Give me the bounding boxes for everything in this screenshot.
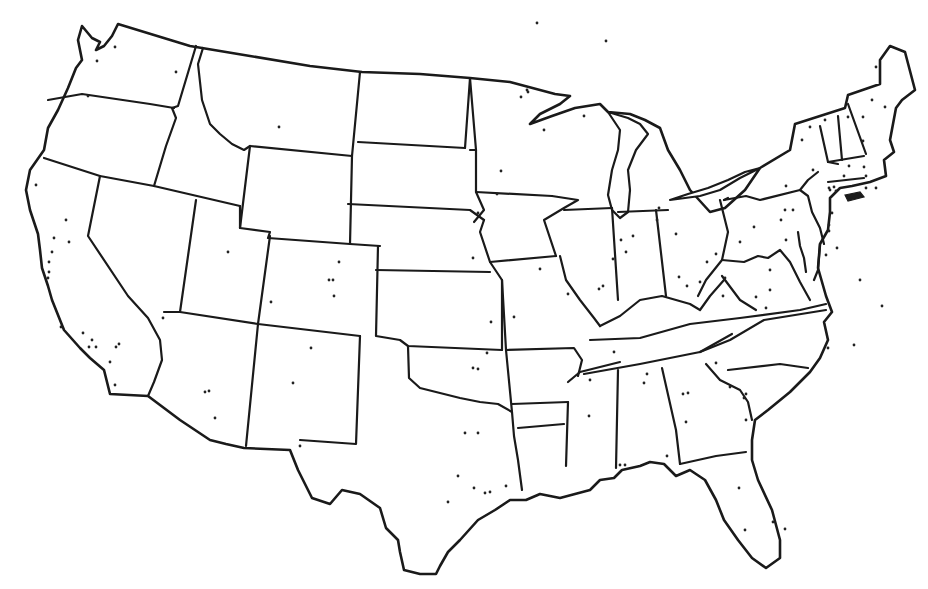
city-dot-marker (785, 185, 788, 188)
city-dot-marker (87, 95, 90, 98)
city-dot-marker (208, 390, 211, 393)
city-dot-marker (812, 169, 815, 172)
city-dot-marker (299, 445, 302, 448)
city-dot-marker (82, 332, 85, 335)
city-dot-marker (828, 230, 831, 233)
islands (845, 192, 864, 201)
city-dot-marker (646, 373, 649, 376)
city-dot-marker (675, 233, 678, 236)
city-dot-marker (801, 139, 804, 142)
city-dot-marker (612, 258, 615, 261)
city-dot-marker (835, 190, 838, 193)
city-dot-marker (114, 384, 117, 387)
city-dot-marker (162, 317, 165, 320)
city-dot-marker (865, 187, 868, 190)
city-dot-marker (486, 352, 489, 355)
city-dot-marker (292, 382, 295, 385)
city-dot-marker (843, 175, 846, 178)
city-dot-marker (755, 296, 758, 299)
city-dot-marker (520, 96, 523, 99)
city-dot-marker (48, 261, 51, 264)
us-map-container (0, 0, 928, 589)
city-dot-marker (780, 219, 783, 222)
city-dot-marker (792, 209, 795, 212)
city-dot-marker (881, 305, 884, 308)
city-dot-marker (753, 226, 756, 229)
city-dot-marker (613, 351, 616, 354)
city-dot-marker (656, 219, 659, 222)
city-dot-marker (687, 392, 690, 395)
us-state-outline-map (0, 0, 928, 589)
city-dot-marker (678, 276, 681, 279)
city-dot-marker (863, 166, 866, 169)
city-dot-marker (175, 71, 178, 74)
city-dot-marker (745, 393, 748, 396)
city-dot-marker (88, 346, 91, 349)
city-dot-marker (862, 116, 865, 119)
city-dot-marker (457, 475, 460, 478)
city-dot-marker (848, 165, 851, 168)
city-dot-marker (643, 382, 646, 385)
city-dot-marker (114, 46, 117, 49)
city-dot-marker (53, 237, 56, 240)
city-dot-marker (583, 115, 586, 118)
city-dot-marker (270, 301, 273, 304)
city-dot-marker (833, 186, 836, 189)
city-dot-marker (505, 485, 508, 488)
city-dot-marker (865, 175, 868, 178)
city-dot-marker (784, 209, 787, 212)
city-dot-marker (447, 501, 450, 504)
city-dot-marker (686, 285, 689, 288)
city-dot-marker (68, 241, 71, 244)
city-dot-marker (744, 529, 747, 532)
city-dot-marker (338, 261, 341, 264)
city-dot-marker (328, 279, 331, 282)
city-dot-marker (859, 279, 862, 282)
city-dot-marker (332, 279, 335, 282)
city-dot-marker (715, 253, 718, 256)
city-dot-marker (278, 126, 281, 129)
city-dot-marker (875, 66, 878, 69)
city-dot-marker (214, 417, 217, 420)
city-dot-marker (699, 281, 702, 284)
city-dot-marker (772, 521, 775, 524)
city-dot-marker (836, 247, 839, 250)
city-dot-marker (847, 116, 850, 119)
city-dot-marker (769, 269, 772, 272)
city-dot-marker (473, 487, 476, 490)
city-dot-marker (227, 251, 230, 254)
city-dot-marker (625, 251, 628, 254)
city-dot-marker (824, 119, 827, 122)
city-dot-marker (743, 397, 746, 400)
city-dot-marker (477, 432, 480, 435)
city-dot-marker (477, 212, 480, 215)
city-dot-marker (605, 40, 608, 43)
city-dot-marker (35, 184, 38, 187)
island-shape (845, 192, 864, 201)
city-dot-marker (115, 346, 118, 349)
city-dot-marker (632, 235, 635, 238)
city-dot-marker (539, 268, 542, 271)
city-dot-marker (472, 257, 475, 260)
city-dot-marker (871, 99, 874, 102)
city-dot-marker (853, 344, 856, 347)
city-dot-marker (51, 251, 54, 254)
city-dot-marker (619, 464, 622, 467)
city-dot-marker (666, 455, 669, 458)
city-dot-marker (598, 288, 601, 291)
city-dot-marker (831, 212, 834, 215)
city-dot-marker (738, 487, 741, 490)
city-dot-marker (809, 126, 812, 129)
city-dot-marker (48, 271, 51, 274)
city-dot-marker (477, 368, 480, 371)
city-dot-marker (118, 343, 121, 346)
city-dot-marker (784, 528, 787, 531)
city-dot-marker (739, 241, 742, 244)
city-dot-marker (96, 60, 99, 63)
city-dot-marker (624, 464, 627, 467)
city-dot-marker (706, 261, 709, 264)
city-dot-marker (47, 277, 50, 280)
city-dot-marker (884, 106, 887, 109)
city-dot-marker (109, 361, 112, 364)
city-dot-marker (715, 362, 718, 365)
